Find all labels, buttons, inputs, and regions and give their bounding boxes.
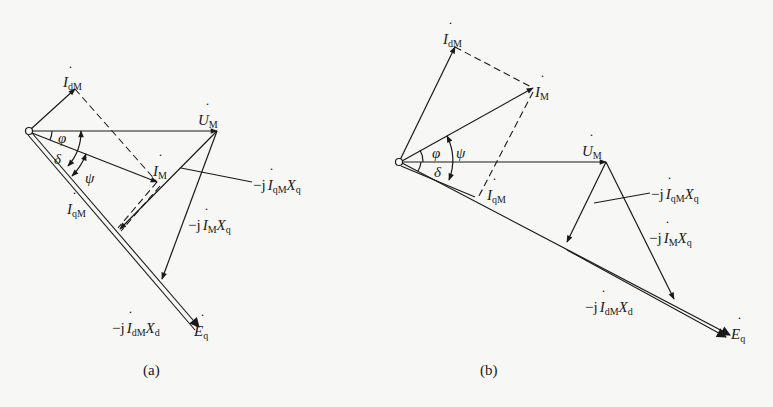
label-phi-b: φ xyxy=(432,145,440,161)
label-phi-a: φ xyxy=(58,130,66,146)
caption-a: (a) xyxy=(143,362,160,379)
projection-dashed-a2 xyxy=(118,182,157,228)
phasor-i-dm-b xyxy=(400,47,455,160)
angle-arc-delta-b xyxy=(418,162,421,171)
phasor-e-q-b xyxy=(402,163,730,335)
dot-neg-j-iqm-xq-a: ˙ xyxy=(269,165,274,181)
diagram-b: IdM ˙ IM ˙ UM ˙ IqM ˙ Eq ˙ −jIqMXq ˙ −jI… xyxy=(396,19,746,379)
dot-neg-j-iqm-xq-b: ˙ xyxy=(667,174,672,190)
leader-line-a xyxy=(181,168,252,182)
label-neg-j-iqm-xq-a: −jIqMXq xyxy=(253,177,301,195)
label-psi-b: ψ xyxy=(456,145,466,161)
diagram-a: IdM ˙ UM ˙ IM ˙ IqM ˙ Eq ˙ −jIqMXq ˙ −jI… xyxy=(26,63,301,379)
angle-arc-phi-a xyxy=(50,131,52,140)
projection-dashed-a1 xyxy=(75,89,157,182)
label-neg-j-im-xq-b: −jIMXq xyxy=(649,230,692,248)
dot-i-m-a: ˙ xyxy=(158,151,163,167)
dot-neg-j-im-xq-a: ˙ xyxy=(204,205,209,221)
label-neg-j-im-xq-a: −jIMXq xyxy=(188,217,231,235)
phasor-neg-j-iqm-xq-a xyxy=(120,131,217,229)
phasor-neg-j-idm-xd-b xyxy=(567,250,726,337)
dot-neg-j-idm-xd-a: ˙ xyxy=(128,308,133,324)
dot-u-m-a: ˙ xyxy=(205,100,210,116)
dot-e-q-a: ˙ xyxy=(200,311,205,327)
dot-i-qm-b: ˙ xyxy=(492,175,497,191)
label-delta-a: δ xyxy=(54,151,62,167)
projection-dashed-b2 xyxy=(479,92,533,196)
dot-i-m-b: ˙ xyxy=(540,72,545,88)
dot-i-dm-a: ˙ xyxy=(68,63,73,79)
label-psi-a: ψ xyxy=(85,170,95,186)
angle-arc-psi-b xyxy=(447,136,453,180)
label-neg-j-iqm-xq-b: −jIqMXq xyxy=(651,186,699,204)
dot-e-q-b: ˙ xyxy=(737,314,742,330)
angle-arc-phi-b xyxy=(420,150,423,162)
label-delta-b: δ xyxy=(434,164,442,180)
projection-dashed-b1 xyxy=(455,47,533,88)
phasor-i-dm-a xyxy=(31,89,75,129)
caption-b: (b) xyxy=(480,362,498,379)
label-neg-j-idm-xd-a: −jIdMXd xyxy=(112,320,160,338)
label-neg-j-idm-xd-b: −jIdMXd xyxy=(585,299,633,317)
origin-node-b xyxy=(396,159,403,166)
phasor-i-m-b xyxy=(402,88,533,161)
dot-i-qm-a: ˙ xyxy=(72,189,77,205)
dot-i-dm-b: ˙ xyxy=(448,19,453,35)
phasor-diagram-figure: IdM ˙ UM ˙ IM ˙ IqM ˙ Eq ˙ −jIqMXq ˙ −jI… xyxy=(0,0,773,407)
dot-neg-j-idm-xd-b: ˙ xyxy=(601,287,606,303)
dot-neg-j-im-xq-b: ˙ xyxy=(665,218,670,234)
dot-u-m-b: ˙ xyxy=(589,131,594,147)
origin-node-a xyxy=(26,128,33,135)
phasor-i-m-a xyxy=(32,133,157,182)
